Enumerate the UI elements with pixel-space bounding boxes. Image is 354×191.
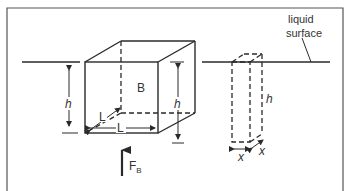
column-depth-label: x — [258, 144, 266, 158]
height-label-left: h — [65, 97, 72, 111]
length-label-depth: L — [99, 110, 106, 124]
height-label-right: h — [174, 97, 181, 111]
block-label: B — [137, 81, 145, 95]
liquid-column — [232, 54, 262, 142]
length-label-width: L — [117, 121, 124, 135]
buoyancy-diagram: liquid surface B h h L L — [0, 0, 354, 191]
liquid-surface-label-line2: surface — [286, 27, 322, 39]
buoyant-force-label: FB — [129, 159, 142, 175]
liquid-surface-label-line1: liquid — [288, 13, 314, 25]
column-height-label: h — [266, 92, 273, 106]
column-width-label: x — [237, 150, 245, 164]
